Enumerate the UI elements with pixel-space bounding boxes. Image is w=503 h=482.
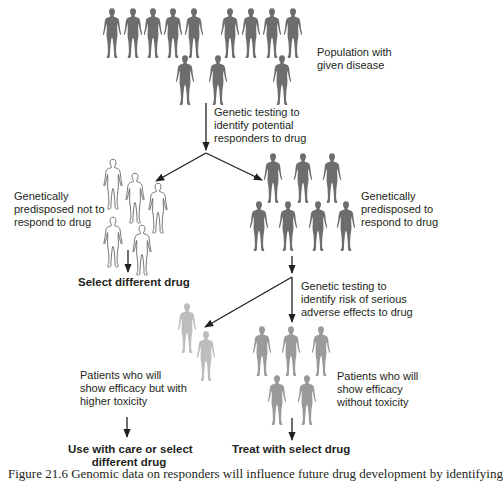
responders-line3: respond to drug bbox=[361, 216, 438, 229]
person-icon bbox=[177, 302, 197, 354]
person-icon bbox=[252, 325, 272, 377]
nontoxic-line1: Patients who will bbox=[337, 370, 418, 383]
person-icon bbox=[208, 54, 228, 106]
person-icon bbox=[336, 200, 356, 252]
nontoxic-label: Patients who will show efficacy without … bbox=[337, 370, 418, 409]
person-outline-icon bbox=[132, 224, 152, 276]
person-icon bbox=[293, 152, 313, 204]
person-icon bbox=[278, 200, 298, 252]
responders-label: Genetically predisposed to respond to dr… bbox=[361, 190, 438, 229]
test2-line3: adverse effects to drug bbox=[301, 306, 413, 319]
arrow-to-toxic bbox=[205, 277, 292, 327]
person-icon bbox=[311, 325, 331, 377]
person-outline-icon bbox=[125, 172, 145, 224]
test2-line1: Genetic testing to bbox=[301, 280, 413, 293]
responders-line1: Genetically bbox=[361, 190, 438, 203]
person-icon bbox=[102, 7, 122, 59]
person-icon bbox=[220, 7, 240, 59]
toxic-line1: Patients who will bbox=[80, 369, 187, 382]
non-responders-line3: respond to drug bbox=[14, 216, 105, 229]
person-icon bbox=[272, 54, 292, 106]
use-with-care-line1: Use with care or select bbox=[68, 443, 190, 456]
person-icon bbox=[123, 7, 143, 59]
arrow-to-nonresponders bbox=[156, 153, 206, 181]
person-icon bbox=[196, 330, 216, 382]
person-icon bbox=[163, 7, 183, 59]
test2-label: Genetic testing to identify risk of seri… bbox=[301, 280, 413, 319]
person-icon bbox=[175, 54, 195, 106]
test1-label: Genetic testing to identify potential re… bbox=[214, 106, 306, 145]
person-icon bbox=[184, 7, 204, 59]
test1-line3: responders to drug bbox=[214, 132, 306, 145]
person-icon bbox=[241, 7, 261, 59]
nontoxic-line2: show efficacy bbox=[337, 383, 418, 396]
person-icon bbox=[283, 7, 303, 59]
person-outline-icon bbox=[103, 216, 123, 268]
responders-line2: predisposed to bbox=[361, 203, 438, 216]
figure-caption-partial: Figure 21.6 Genomic data on responders w… bbox=[8, 466, 503, 482]
person-icon bbox=[281, 325, 301, 377]
non-responders-label: Genetically predisposed not to respond t… bbox=[14, 190, 105, 229]
person-outline-icon bbox=[103, 158, 123, 210]
select-different-drug-outcome: Select different drug bbox=[78, 276, 190, 289]
person-icon bbox=[308, 200, 328, 252]
population-label-line2: given disease bbox=[317, 59, 392, 72]
person-icon bbox=[322, 152, 342, 204]
person-icon bbox=[263, 152, 283, 204]
test1-line1: Genetic testing to bbox=[214, 106, 306, 119]
toxic-line3: higher toxicity bbox=[80, 395, 187, 408]
non-responders-line1: Genetically bbox=[14, 190, 105, 203]
test1-line2: identify potential bbox=[214, 119, 306, 132]
person-icon bbox=[267, 374, 287, 426]
toxic-label: Patients who will show efficacy but with… bbox=[80, 369, 187, 408]
nontoxic-line3: without toxicity bbox=[337, 396, 418, 409]
treat-with-select-drug-outcome: Treat with select drug bbox=[232, 443, 350, 456]
population-label-line1: Population with bbox=[317, 46, 392, 59]
person-icon bbox=[297, 374, 317, 426]
person-icon bbox=[143, 7, 163, 59]
test2-line2: identify risk of serious bbox=[301, 293, 413, 306]
arrow-to-responders bbox=[206, 153, 262, 180]
population-label: Population with given disease bbox=[317, 46, 392, 72]
toxic-line2: show efficacy but with bbox=[80, 382, 187, 395]
person-icon bbox=[249, 200, 269, 252]
non-responders-line2: predisposed not to bbox=[14, 203, 105, 216]
person-icon bbox=[262, 7, 282, 59]
